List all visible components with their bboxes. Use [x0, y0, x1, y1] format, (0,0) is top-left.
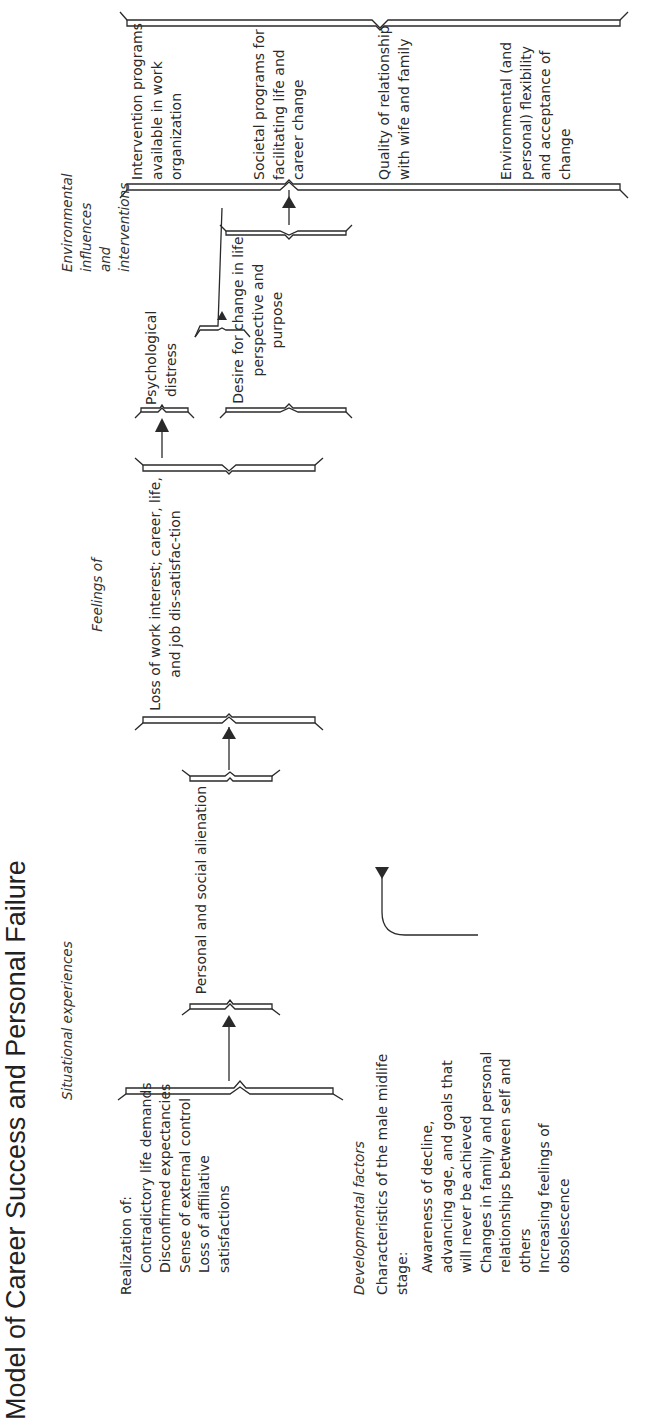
diagram-canvas: Model of Career Success and Personal Fai… [0, 0, 661, 1420]
environmental-item: Environmental (and personal) flexibility… [497, 20, 575, 180]
desire-label: Desire for change in life perspective an… [229, 236, 288, 404]
environmental-list: Intervention programs available in work … [128, 20, 575, 180]
feelings-label: Loss of work interest; career, life, and… [146, 474, 185, 714]
situational-header: Situational experiences [58, 941, 77, 1100]
developmental-list: Characteristics of the male midlife stag… [373, 1050, 574, 1295]
developmental-item: Increasing feelings of obsolescence [535, 1050, 574, 1295]
situational-item: Disconfirmed expectancies [156, 1075, 176, 1295]
situational-item: Sense of external control [176, 1075, 196, 1295]
distress-label: Psychological distress [142, 335, 181, 405]
situational-item: Loss of affiliative satisfactions [195, 1075, 234, 1295]
situational-list: Realization of: Contradictory life deman… [117, 1075, 234, 1295]
page-title: Model of Career Success and Personal Fai… [1, 860, 32, 1420]
alienation-label: Personal and social alienation [192, 780, 212, 1000]
feelings-header: Feelings of [88, 470, 107, 720]
environmental-item: Intervention programs available in work … [128, 20, 250, 180]
developmental-intro: Characteristics of the male midlife stag… [373, 1050, 412, 1295]
developmental-item: Changes in family and personal relations… [477, 1050, 536, 1295]
situational-item: Contradictory life demands [137, 1075, 157, 1295]
environmental-header: Environmental influences and interventio… [58, 192, 134, 272]
developmental-header: Developmental factors [350, 1141, 369, 1295]
environmental-item: Quality of relationship with wife and fa… [375, 20, 497, 180]
developmental-item: Awareness of decline, advancing age, and… [418, 1050, 477, 1295]
environmental-item: Societal programs for facilitating life … [250, 20, 375, 180]
situational-intro: Realization of: [117, 1075, 137, 1295]
